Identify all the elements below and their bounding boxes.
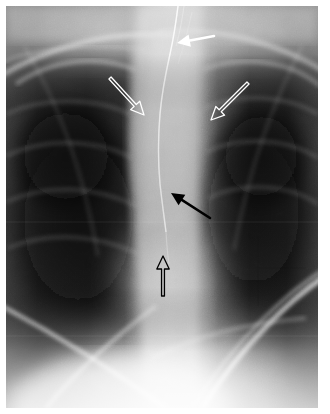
radiograph-image — [6, 6, 318, 408]
radiograph-image-frame — [6, 6, 318, 408]
radiograph-figure — [0, 0, 330, 414]
